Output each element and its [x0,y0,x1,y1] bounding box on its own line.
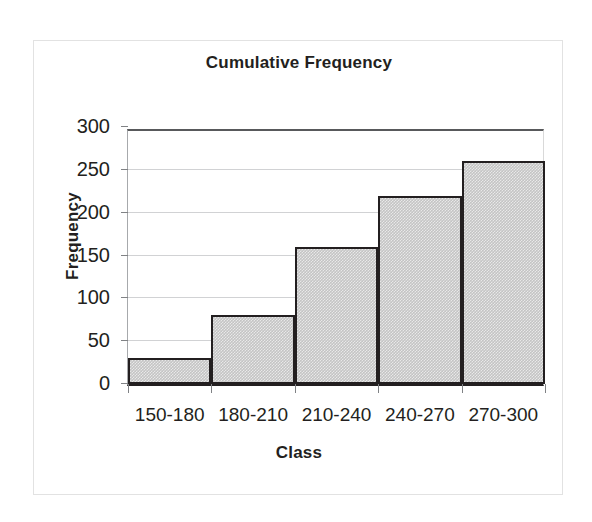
x-axis-tick-label: 270-300 [462,404,545,426]
y-axis-tick: 250 [121,169,128,170]
x-axis-tick [128,384,129,393]
y-axis-tick-label: 300 [77,115,110,138]
x-axis-tick [545,384,546,393]
y-axis-tick: 0 [121,383,128,384]
bar [378,196,461,384]
y-axis-tick-label: 200 [77,200,110,223]
y-axis-tick: 50 [121,340,128,341]
y-axis-tick-label: 100 [77,286,110,309]
chart-title: Cumulative Frequency [34,53,564,73]
y-axis-tick: 100 [121,297,128,298]
y-axis-tick-label: 250 [77,157,110,180]
x-axis-tick-label: 150-180 [128,404,211,426]
x-axis-tick [378,384,379,393]
y-axis-tick: 300 [121,126,128,127]
x-axis-tick [462,384,463,393]
x-axis-title: Class [34,443,564,463]
y-axis-tick-label: 150 [77,243,110,266]
bar [295,247,378,384]
y-axis-tick-label: 50 [88,329,110,352]
bar [128,358,211,384]
x-axis-tick [295,384,296,393]
bar [211,315,294,384]
chart-frame: Cumulative Frequency Frequency 050100150… [33,40,563,495]
y-axis-tick: 150 [121,255,128,256]
x-axis-tick-label: 240-270 [378,404,461,426]
plot-area: 050100150200250300 150-180180-210210-240… [127,129,544,386]
x-axis-tick-label: 210-240 [295,404,378,426]
x-axis-tick-label: 180-210 [211,404,294,426]
y-axis-tick: 200 [121,212,128,213]
y-axis-tick-label: 0 [99,372,110,395]
bar [462,161,545,384]
x-axis-tick [211,384,212,393]
